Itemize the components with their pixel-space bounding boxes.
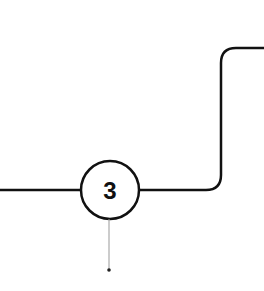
outgoing-path <box>139 48 264 190</box>
connector-dot <box>107 268 111 272</box>
process-diagram: 3 <box>0 0 264 291</box>
step-number: 3 <box>103 177 116 204</box>
